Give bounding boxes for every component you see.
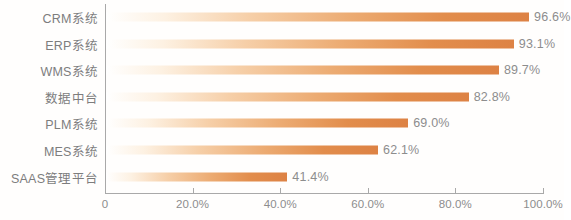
bar[interactable] xyxy=(106,119,408,128)
x-axis-tick-label: 100.0% xyxy=(523,198,563,210)
bar-row: MES系统62.1% xyxy=(0,137,564,163)
bar[interactable] xyxy=(106,13,529,22)
x-axis-tick-label: 40.0% xyxy=(264,198,297,210)
x-axis-tick-label: 20.0% xyxy=(176,198,209,210)
bar-track xyxy=(106,57,544,83)
bar-row: SAAS管理平台41.4% xyxy=(0,164,564,190)
x-axis-tick-label: 80.0% xyxy=(439,198,472,210)
bar-value-label: 93.1% xyxy=(519,37,555,51)
category-label: 数据中台 xyxy=(45,87,98,106)
bar-track xyxy=(106,31,544,57)
x-axis-tick-label: 60.0% xyxy=(351,198,384,210)
category-label: CRM系统 xyxy=(43,8,98,27)
bar-value-label: 69.0% xyxy=(413,116,449,130)
bar-row: PLM系统69.0% xyxy=(0,110,564,136)
bar-track xyxy=(106,4,544,30)
bar[interactable] xyxy=(106,146,378,155)
category-label: WMS系统 xyxy=(40,61,98,80)
bar-row: 数据中台82.8% xyxy=(0,84,564,110)
bar[interactable] xyxy=(106,39,514,48)
category-label: SAAS管理平台 xyxy=(11,167,98,186)
x-axis-tick-label: 0 xyxy=(102,198,109,210)
bar[interactable] xyxy=(106,66,499,75)
bar-value-label: 62.1% xyxy=(383,143,419,157)
x-axis-line xyxy=(105,193,544,194)
bar[interactable] xyxy=(106,92,469,101)
bar-value-label: 82.8% xyxy=(474,90,510,104)
bar-value-label: 96.6% xyxy=(534,10,570,24)
bar-row: ERP系统93.1% xyxy=(0,31,564,57)
bar-value-label: 41.4% xyxy=(292,170,328,184)
bar-row: CRM系统96.6% xyxy=(0,4,564,30)
bar-track xyxy=(106,110,544,136)
category-label: ERP系统 xyxy=(45,34,98,53)
category-label: MES系统 xyxy=(44,141,98,160)
bar-row: WMS系统89.7% xyxy=(0,57,564,83)
bar[interactable] xyxy=(106,172,287,181)
bar-track xyxy=(106,137,544,163)
category-label: PLM系统 xyxy=(45,114,98,133)
bar-value-label: 89.7% xyxy=(504,63,540,77)
